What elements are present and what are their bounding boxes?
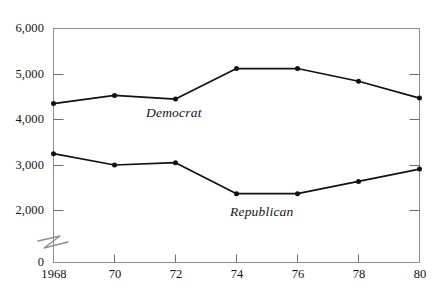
y-tick-label-6000: 6,000 [0, 21, 44, 36]
x-axis-ticks [115, 255, 359, 263]
data-point [51, 151, 56, 156]
data-point [234, 66, 239, 71]
y-tick-label-2000: 2,000 [0, 203, 44, 218]
x-tick-label-78: 78 [338, 267, 380, 282]
y-tick-label-3000: 3,000 [0, 158, 44, 173]
data-point [173, 160, 178, 165]
data-point [51, 101, 56, 106]
data-point [417, 96, 422, 101]
data-point [356, 179, 361, 184]
x-tick-label-76: 76 [277, 267, 319, 282]
series-line [54, 69, 420, 104]
x-tick-label-70: 70 [94, 267, 136, 282]
series-label-democrat: Democrat [146, 105, 202, 121]
data-point [112, 163, 117, 168]
data-point [173, 97, 178, 102]
x-tick-label-72: 72 [155, 267, 197, 282]
data-point [295, 66, 300, 71]
line-chart: 6,000 5,000 4,000 3,000 2,000 0 1968 70 … [0, 0, 444, 293]
y-tick-label-4000: 4,000 [0, 112, 44, 127]
x-tick-label-1968: 1968 [28, 267, 80, 282]
series-republican [51, 151, 422, 196]
x-tick-label-74: 74 [216, 267, 258, 282]
data-point [112, 93, 117, 98]
data-point [356, 79, 361, 84]
data-point [295, 191, 300, 196]
series-democrat [51, 66, 422, 106]
series-line [54, 154, 420, 194]
series-label-republican: Republican [230, 204, 293, 220]
y-axis-ticks [54, 75, 64, 211]
chart-canvas [0, 0, 444, 293]
data-point [234, 191, 239, 196]
plot-frame [54, 29, 420, 263]
x-tick-label-80: 80 [399, 267, 441, 282]
y-tick-label-5000: 5,000 [0, 67, 44, 82]
data-series-layer [51, 66, 422, 196]
data-point [417, 167, 422, 172]
